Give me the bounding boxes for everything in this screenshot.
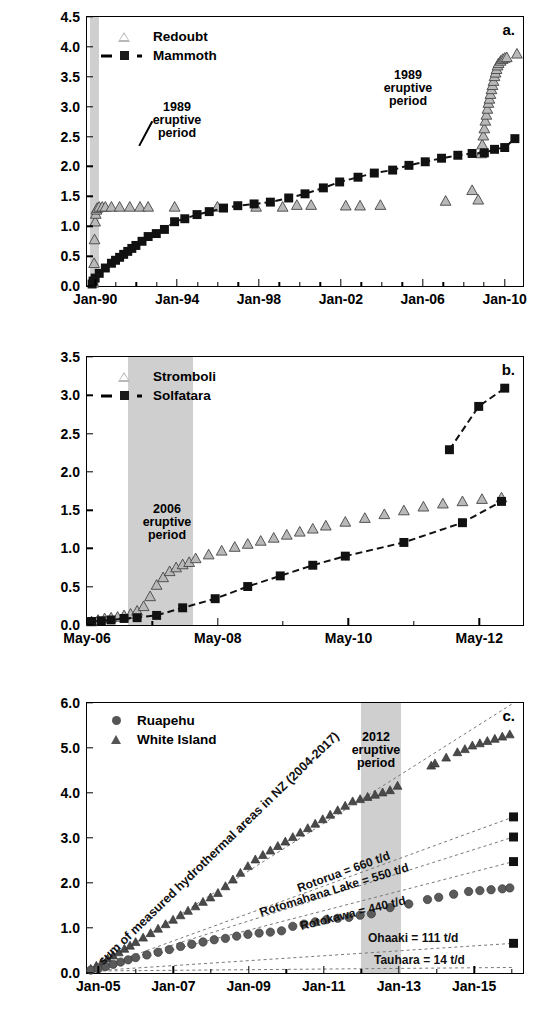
panel-b-ytick-mark xyxy=(87,548,93,549)
panel-a-xtick-mark xyxy=(504,279,505,286)
panel-b-ytick-label: 0.5 xyxy=(61,579,87,595)
panel-a-xtick-minor xyxy=(463,282,464,286)
panel-a-ytick-mark xyxy=(87,46,93,47)
panel-c-xtick-label: Jan-09 xyxy=(226,973,270,994)
panel-a-xtick-minor xyxy=(381,282,382,286)
figure-cumulative-co2-emissions: Cumulative CO2 Emission (Mt) a. Redoubt … xyxy=(0,0,538,1031)
panel-c-ytick-label: 4.0 xyxy=(61,785,87,801)
panel-a-xtick-minor xyxy=(299,282,300,286)
panel-b-xtick-label: May-10 xyxy=(325,625,372,646)
panel-b-xtick-label: May-06 xyxy=(63,625,110,646)
panel-b-ytick-mark xyxy=(87,586,93,587)
panel-a-xtick-label: Jan-90 xyxy=(73,286,117,307)
panel-c-xtick-minor xyxy=(436,969,437,973)
panel-a-data-layer xyxy=(87,17,523,286)
panel-c-reference-label-ohaaki: Ohaaki = 111 t/d xyxy=(368,931,458,945)
panel-a-xtick-minor xyxy=(483,282,484,286)
panel-b-ytick-mark xyxy=(87,471,93,472)
panel-c-xtick-mark xyxy=(398,966,399,973)
panel-a-plot-area: a. Redoubt Mammoth 1989 e xyxy=(86,16,524,287)
panel-c-ytick-label: 5.0 xyxy=(61,740,87,756)
panel-c-xtick-minor xyxy=(511,969,512,973)
panel-a-xtick-minor xyxy=(135,282,136,286)
panel-a-xtick-minor xyxy=(238,282,239,286)
panel-b-xtick-label: May-12 xyxy=(455,625,502,646)
panel-b-annotation-2006: 2006 eruptive period xyxy=(130,503,204,542)
panel-b-data-layer xyxy=(87,357,523,625)
panel-c-ytick-label: 2.0 xyxy=(61,875,87,891)
panel-b-xtick-mark xyxy=(86,618,87,625)
panel-b-ytick-mark xyxy=(87,395,93,396)
panel-a-ytick-label: 4.0 xyxy=(61,39,87,55)
panel-c-xtick-mark xyxy=(323,966,324,973)
panel-c-ytick-mark xyxy=(87,702,93,703)
panel-a-xtick-minor xyxy=(279,282,280,286)
panel-c-xtick-minor xyxy=(361,969,362,973)
panel-c-xtick-minor xyxy=(135,969,136,973)
panel-c-xtick-label: Jan-15 xyxy=(452,973,496,994)
panel-b-ytick-label: 3.0 xyxy=(61,387,87,403)
panel-a-xtick-mark xyxy=(422,279,423,286)
panel-a-xtick-minor xyxy=(361,282,362,286)
panel-a-ytick-label: 2.0 xyxy=(61,158,87,174)
panel-a-ytick-label: 3.0 xyxy=(61,99,87,115)
panel-c-ytick-label: 3.0 xyxy=(61,830,87,846)
panel-c-plot-area: c. Ruapehu White Island 2012 eruptive pe… xyxy=(86,702,524,974)
panel-b-ytick-label: 1.5 xyxy=(61,502,87,518)
panel-b-xtick-mark xyxy=(479,618,480,625)
panel-c-ytick-label: 6.0 xyxy=(61,695,87,711)
panel-a-annotation-2009: 1989 eruptive period xyxy=(368,69,448,108)
panel-a-ytick-label: 3.5 xyxy=(61,69,87,85)
panel-c-xtick-mark xyxy=(248,966,249,973)
panel-c-xtick-mark xyxy=(98,966,99,973)
panel-a-xtick-label: Jan-98 xyxy=(237,286,281,307)
panel-a-ytick-mark xyxy=(87,16,93,17)
panel-a-xtick-minor xyxy=(320,282,321,286)
panel-a-xtick-label: Jan-06 xyxy=(401,286,445,307)
panel-c-ytick-mark xyxy=(87,882,93,883)
panel-a-xtick-minor xyxy=(402,282,403,286)
panel-b-xtick-minor xyxy=(282,621,283,625)
panel-a-xtick-label: Jan-02 xyxy=(319,286,363,307)
panel-b-ytick-mark xyxy=(87,509,93,510)
panel-a-ytick-label: 0.5 xyxy=(61,248,87,264)
panel-c-xtick-label: Jan-13 xyxy=(377,973,421,994)
panel-b-plot-area: b. Stromboli Solfatara 2006 xyxy=(86,356,524,626)
panel-a-ytick-mark xyxy=(87,106,93,107)
panel-a-xtick-minor xyxy=(197,282,198,286)
panel-a-ytick-label: 4.5 xyxy=(61,9,87,25)
panel-c-ytick-mark xyxy=(87,837,93,838)
panel-b-ytick-label: 2.0 xyxy=(61,464,87,480)
panel-a-ytick-mark xyxy=(87,196,93,197)
panel-a-xtick-label: Jan-10 xyxy=(482,286,526,307)
panel-a-xtick-mark xyxy=(176,279,177,286)
panel-b-ytick-label: 1.0 xyxy=(61,540,87,556)
panel-c: Cumulative CO2 Emission (Mt) c. Ruapehu … xyxy=(0,686,538,1031)
panel-c-xtick-label: Jan-05 xyxy=(76,973,120,994)
panel-a-ytick-mark xyxy=(87,76,93,77)
panel-c-xtick-label: Jan-11 xyxy=(302,973,346,994)
panel-a-xtick-mark xyxy=(94,279,95,286)
panel-a-xtick-minor xyxy=(156,282,157,286)
panel-b-xtick-label: May-08 xyxy=(194,625,241,646)
panel-a-xtick-mark xyxy=(258,279,259,286)
panel-a-ytick-mark xyxy=(87,255,93,256)
panel-b-ytick-mark xyxy=(87,433,93,434)
panel-c-reference-label-tauhara: Tauhara = 14 t/d xyxy=(374,953,465,967)
panel-b-ytick-label: 3.5 xyxy=(61,349,87,365)
panel-b-ytick-label: 2.5 xyxy=(61,426,87,442)
panel-c-xtick-mark xyxy=(173,966,174,973)
panel-a-ytick-label: 1.5 xyxy=(61,188,87,204)
panel-b-xtick-mark xyxy=(217,618,218,625)
panel-a-xtick-minor xyxy=(442,282,443,286)
panel-c-ytick-label: 1.0 xyxy=(61,920,87,936)
panel-c-ytick-mark xyxy=(87,747,93,748)
panel-a-ytick-label: 1.0 xyxy=(61,218,87,234)
panel-a-xtick-minor xyxy=(217,282,218,286)
panel-c-xtick-minor xyxy=(286,969,287,973)
panel-a-ytick-mark xyxy=(87,166,93,167)
panel-c-xtick-mark xyxy=(473,966,474,973)
panel-b-xtick-minor xyxy=(413,621,414,625)
panel-a: Cumulative CO2 Emission (Mt) a. Redoubt … xyxy=(0,0,538,330)
panel-c-ytick-mark xyxy=(87,792,93,793)
